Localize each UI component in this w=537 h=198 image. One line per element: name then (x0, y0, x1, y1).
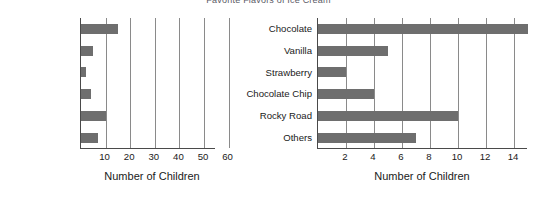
gridline-60 (229, 18, 230, 148)
gridline-30 (155, 18, 156, 148)
x-axis-title-right: Number of Children (312, 170, 532, 183)
bar-row-others (81, 127, 98, 149)
bar-row-chocolate-right (318, 18, 528, 40)
bar-row-vanilla (81, 40, 93, 62)
bar-strawberry-right (318, 67, 346, 77)
category-label-chocolate-chip-right: Chocolate Chip (246, 89, 312, 99)
bar-row-chocolate-chip-right (318, 83, 374, 105)
x-tick-14: 14 (508, 151, 519, 162)
bar-rocky-road-right (318, 111, 458, 121)
x-tick-50: 50 (198, 151, 209, 162)
x-tick-labels-right: 2 4 6 8 10 12 14 (268, 151, 537, 165)
bar-row-chocolate (81, 18, 118, 40)
bar-row-chocolate-chip (81, 83, 91, 105)
bar-chocolate-chip (81, 89, 91, 99)
category-label-rocky-road-right: Rocky Road (260, 111, 312, 121)
x-tick-8: 8 (426, 151, 431, 162)
x-tick-10: 10 (99, 151, 110, 162)
bar-strawberry (81, 67, 86, 77)
x-tick-20: 20 (124, 151, 135, 162)
gridline-40 (179, 18, 180, 148)
x-tick-4: 4 (370, 151, 375, 162)
bar-row-strawberry-right (318, 62, 346, 84)
category-labels-right: Chocolate Vanilla Strawberry Chocolate C… (255, 18, 315, 149)
x-tick-60: 60 (222, 151, 233, 162)
x-tick-30: 30 (148, 151, 159, 162)
category-labels-left: Chocolate Vanilla Strawberry Chocolate C… (0, 18, 78, 149)
bar-vanilla (81, 46, 93, 56)
bar-others-right (318, 133, 416, 143)
plot-area-right (317, 18, 527, 149)
x-tick-2: 2 (342, 151, 347, 162)
bar-row-strawberry (81, 62, 86, 84)
bar-row-rocky-road-right (318, 105, 458, 127)
x-axis-title-left: Number of Children (52, 170, 252, 183)
plot-area-left (80, 18, 215, 149)
bar-chocolate-chip-right (318, 89, 374, 99)
x-tick-12: 12 (480, 151, 491, 162)
x-tick-labels-left: 10 20 30 40 50 60 (0, 151, 268, 165)
x-tick-40: 40 (173, 151, 184, 162)
category-label-others-right: Others (283, 133, 312, 143)
category-label-vanilla-right: Vanilla (284, 46, 312, 56)
bar-rocky-road (81, 111, 106, 121)
x-tick-10: 10 (452, 151, 463, 162)
chart-panel-right: Chocolate Vanilla Strawberry Chocolate C… (268, 0, 537, 198)
bar-row-vanilla-right (318, 40, 388, 62)
x-tick-6: 6 (398, 151, 403, 162)
category-label-strawberry-right: Strawberry (266, 68, 312, 78)
category-label-chocolate-right: Chocolate (269, 24, 312, 34)
bar-chocolate (81, 24, 118, 34)
gridline-20 (130, 18, 131, 148)
bar-others (81, 133, 98, 143)
bar-row-rocky-road (81, 105, 106, 127)
gridline-50 (204, 18, 205, 148)
chart-panel-left: Chocolate Vanilla Strawberry Chocolate C… (0, 0, 268, 198)
bar-chocolate-right (318, 24, 528, 34)
bar-vanilla-right (318, 46, 388, 56)
bar-row-others-right (318, 127, 416, 149)
